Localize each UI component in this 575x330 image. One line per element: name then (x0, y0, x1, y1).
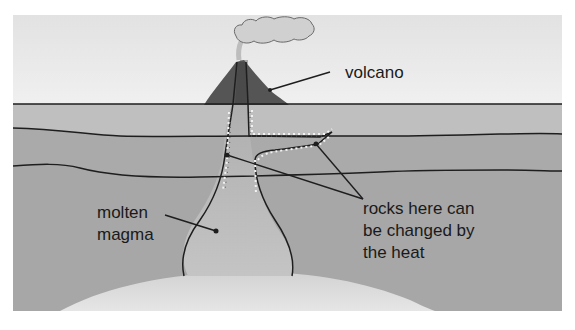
magma-leader-dot (214, 229, 219, 234)
rocks-leader-dot-2 (314, 142, 319, 147)
rock-layer-top (13, 104, 562, 136)
rocks-label-line1: rocks here can (363, 199, 475, 218)
magma-label-line2: magma (97, 225, 154, 244)
rocks-leader-dot-1 (225, 153, 230, 158)
rocks-label-line2: be changed by (363, 221, 475, 240)
volcano-leader-dot (268, 88, 272, 92)
magma-label-line1: molten (97, 203, 148, 222)
volcano-cross-section-diagram: volcano molten magma rocks here can be c… (0, 0, 575, 330)
rocks-label-line3: the heat (363, 243, 425, 262)
volcano-label: volcano (345, 63, 404, 82)
